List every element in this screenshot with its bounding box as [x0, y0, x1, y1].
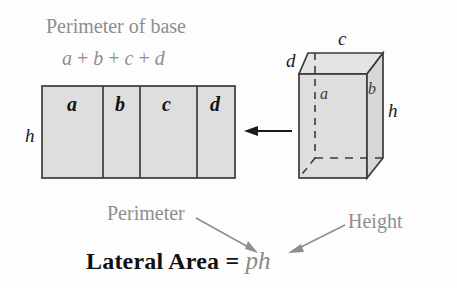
net-height-label: h [25, 126, 35, 145]
sum-plus-3: + [133, 47, 154, 69]
sum-plus-2: + [103, 47, 124, 69]
net-panel-label-b: b [115, 94, 125, 114]
prism-hidden-edge-label-a: a [320, 86, 328, 102]
prism-top-edge-label-c: c [338, 29, 346, 48]
prism-front-face [299, 74, 367, 178]
formula-lead-text: Lateral Area = [86, 248, 246, 274]
base-sum-expression: a + b + c + d [62, 48, 165, 68]
sum-term-b: b [93, 47, 103, 69]
unfold-arrow-head [244, 126, 258, 136]
net-panel-label-a: a [67, 94, 77, 114]
unfold-arrow-group [244, 126, 292, 136]
prism-height-label-h: h [388, 101, 398, 120]
prism-group [299, 53, 383, 178]
perimeter-callout-shaft [196, 218, 250, 248]
lateral-area-figure: Perimeter of base a + b + c + d a b c d … [0, 0, 457, 288]
formula-ph-symbols: ph [246, 247, 271, 274]
height-callout-arrow-group [288, 225, 345, 253]
figure-graphics [0, 0, 457, 288]
prism-back-left-edge-label-d: d [286, 51, 296, 70]
sum-term-d: d [155, 47, 165, 69]
prism-right-face [367, 53, 383, 178]
height-callout-head [288, 244, 304, 253]
height-callout-shaft [297, 225, 345, 249]
lateral-area-formula: Lateral Area = ph [86, 248, 271, 273]
net-panel-label-c: c [162, 94, 171, 114]
prism-right-face-label-b: b [368, 81, 376, 97]
height-callout-label: Height [348, 211, 402, 231]
sum-term-a: a [62, 47, 72, 69]
perimeter-of-base-label: Perimeter of base [46, 16, 186, 36]
perimeter-callout-label: Perimeter [107, 203, 185, 223]
sum-plus-1: + [72, 47, 93, 69]
net-panel-label-d: d [210, 94, 220, 114]
